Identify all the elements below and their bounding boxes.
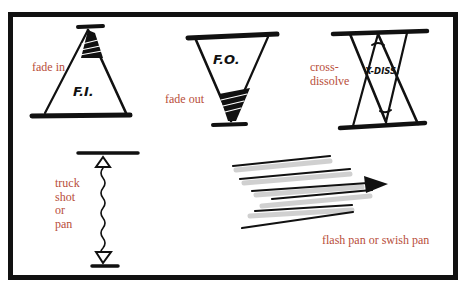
flash-pan-label: flash pan or swish pan	[322, 234, 429, 248]
fade-out-symbol: F.O.	[188, 34, 277, 125]
arrowhead-icon	[364, 176, 388, 193]
fade-in-inscription: F.I.	[73, 84, 94, 99]
transition-symbols-sheet: F.I. F.O.	[0, 0, 464, 287]
cross-dissolve-label: cross- dissolve	[310, 61, 349, 88]
truck-shot-label-line: or	[55, 204, 80, 218]
flash-pan-symbol	[233, 156, 388, 228]
truck-shot-label: truck shot or pan	[55, 177, 80, 231]
fade-out-label: fade out	[165, 93, 204, 107]
fade-in-label: fade in	[32, 61, 65, 75]
cross-dissolve-label-line: dissolve	[310, 75, 349, 89]
truck-shot-label-line: truck	[55, 177, 80, 191]
cross-dissolve-inscription: X-DISS.	[364, 66, 399, 76]
truck-shot-symbol	[78, 153, 138, 266]
truck-shot-label-line: pan	[55, 218, 80, 232]
truck-shot-label-line: shot	[55, 191, 80, 205]
fade-out-inscription: F.O.	[213, 52, 240, 67]
cross-dissolve-label-line: cross-	[310, 61, 349, 75]
